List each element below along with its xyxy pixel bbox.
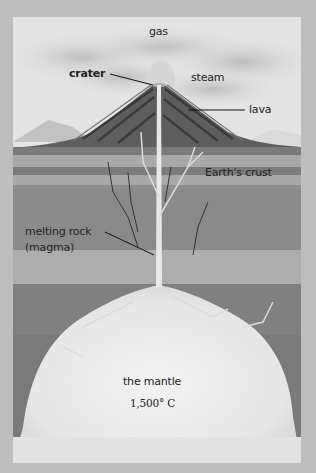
label-lava: lava (249, 103, 271, 117)
volcano-diagram: gas crater steam lava Earth's crust melt… (13, 17, 301, 463)
label-steam: steam (191, 71, 224, 85)
label-crater: crater (69, 67, 105, 81)
label-gas: gas (149, 25, 168, 39)
label-mantle: the mantle (123, 375, 181, 389)
label-earths-crust: Earth's crust (205, 166, 272, 180)
magma-conduit (156, 85, 162, 287)
label-mantle-temperature: 1,500° C (130, 396, 175, 410)
label-magma: (magma) (25, 241, 74, 255)
label-melting-rock: melting rock (25, 225, 91, 239)
